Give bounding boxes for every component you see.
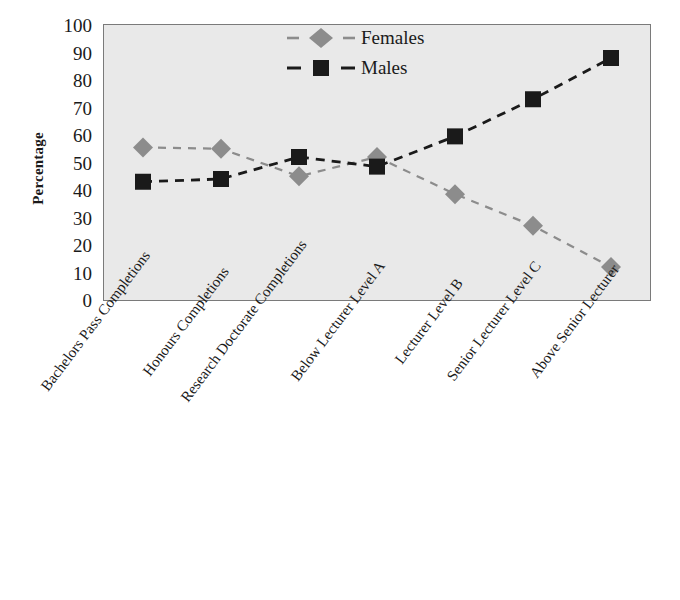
x-axis-tick-labels: Bachelors Pass CompletionsHonours Comple… (0, 0, 680, 600)
x-tick-label: Above Senior Lecturer (526, 261, 621, 380)
x-tick-label: Below Lecturer Level A (287, 258, 387, 384)
x-tick-label: Lecturer Level B (391, 275, 465, 366)
x-tick-label: Senior Lecturer Level C (443, 258, 543, 384)
chart-figure: Percentage 1009080706050403020100 Female… (0, 0, 680, 600)
x-tick-label: Bachelors Pass Completions (38, 248, 154, 394)
x-tick-label: Research Doctorate Completions (177, 237, 309, 405)
